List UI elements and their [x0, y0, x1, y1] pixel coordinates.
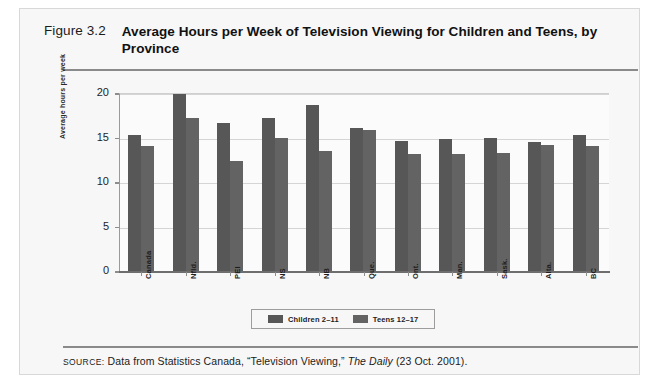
- bar-group: [430, 93, 474, 271]
- x-tick-label: Canada: [144, 251, 153, 279]
- bar-group: [252, 93, 296, 271]
- x-tick-mark: [497, 272, 498, 276]
- x-tick-mark: [319, 272, 320, 276]
- bar: [484, 138, 497, 271]
- x-tick-label: Ont.: [411, 263, 420, 279]
- y-tick-label: 5: [63, 220, 109, 232]
- x-tick-label: Alta.: [544, 262, 553, 279]
- source-suffix: (23 Oct. 2001).: [393, 355, 468, 367]
- figure-box: Figure 3.2 Average Hours per Week of Tel…: [19, 8, 640, 375]
- bar: [439, 139, 452, 271]
- source-publication: The Daily: [348, 355, 393, 367]
- legend-swatch: [268, 315, 283, 323]
- x-tick-mark: [186, 272, 187, 276]
- x-tick-mark: [364, 272, 365, 276]
- bar: [541, 145, 554, 271]
- figure-title-block: Figure 3.2 Average Hours per Week of Tel…: [44, 23, 624, 57]
- x-tick-label: Sask.: [500, 258, 509, 279]
- legend-entry: Children 2–11: [268, 315, 339, 324]
- x-tick-label: Que.: [367, 262, 376, 279]
- y-tick-label: 15: [63, 131, 109, 143]
- x-tick-label: PEI: [233, 266, 242, 279]
- bar: [306, 105, 319, 271]
- y-tick-label: 20: [63, 86, 109, 98]
- bar: [395, 141, 408, 271]
- x-tick-mark: [541, 272, 542, 276]
- bar: [573, 135, 586, 271]
- bar: [319, 151, 332, 271]
- source-prefix: Data from Statistics Canada, “Television…: [105, 355, 348, 367]
- y-axis-label: Average hours per week: [59, 19, 66, 139]
- source-note: SOURCE: Data from Statistics Canada, “Te…: [63, 355, 643, 367]
- bar: [528, 142, 541, 271]
- legend-entry: Teens 12–17: [353, 315, 419, 324]
- bar: [586, 146, 599, 271]
- bar-group: [163, 93, 207, 271]
- bar: [363, 130, 376, 271]
- legend-label: Children 2–11: [288, 315, 339, 324]
- bar: [350, 128, 363, 271]
- x-tick-mark: [408, 272, 409, 276]
- bar-group: [119, 93, 163, 271]
- y-tick-label: 0: [63, 264, 109, 276]
- x-tick-label: Nfld.: [189, 261, 198, 279]
- legend-label: Teens 12–17: [373, 315, 419, 324]
- bar: [452, 154, 465, 271]
- page-title: Average Hours per Week of Television Vie…: [122, 23, 624, 57]
- bar: [128, 135, 141, 271]
- x-tick-mark: [586, 272, 587, 276]
- bar-group: [564, 93, 608, 271]
- bar-group: [208, 93, 252, 271]
- bar: [497, 153, 510, 271]
- chart-legend: Children 2–11Teens 12–17: [251, 309, 435, 329]
- bar: [230, 161, 243, 271]
- y-tick-label: 10: [63, 175, 109, 187]
- bar: [186, 118, 199, 271]
- bar-chart: Average hours per week 05101520CanadaNfl…: [63, 81, 638, 336]
- bar: [408, 154, 421, 271]
- x-tick-mark: [275, 272, 276, 276]
- bar: [173, 94, 186, 271]
- bar: [217, 123, 230, 271]
- bar-group: [341, 93, 385, 271]
- source-label: SOURCE:: [63, 357, 105, 367]
- x-tick-mark: [141, 272, 142, 276]
- title-divider-rule: [63, 69, 638, 71]
- y-tick-mark: [115, 271, 119, 273]
- bar-group: [475, 93, 519, 271]
- source-divider-rule: [63, 346, 638, 348]
- bar: [275, 138, 288, 272]
- x-tick-label: Man.: [455, 261, 464, 279]
- x-tick-label: NS: [278, 268, 287, 279]
- x-tick-mark: [452, 272, 453, 276]
- bar: [262, 118, 275, 271]
- bar-group: [386, 93, 430, 271]
- x-tick-mark: [230, 272, 231, 276]
- bar-group: [519, 93, 563, 271]
- bar-group: [297, 93, 341, 271]
- figure-number: Figure 3.2: [44, 23, 106, 38]
- x-tick-label: BC: [589, 268, 598, 279]
- x-tick-label: NB: [322, 268, 331, 279]
- legend-swatch: [353, 315, 368, 323]
